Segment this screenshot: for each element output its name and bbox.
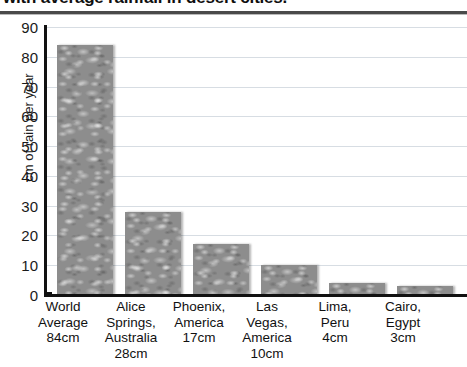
x-label-lima: Lima,Peru4cm	[301, 299, 369, 346]
x-label-line: Cairo,	[369, 299, 437, 315]
chart-title: with average rainfall in desert cities.	[3, 0, 287, 8]
x-label-line: Alice	[97, 299, 165, 315]
x-label-las-vegas: LasVegas,America10cm	[233, 299, 301, 361]
x-label-phoenix: Phoenix,America17cm	[165, 299, 233, 346]
x-label-line: Lima,	[301, 299, 369, 315]
y-tick-label-60: 60	[8, 108, 38, 125]
bar-phoenix[interactable]	[193, 244, 249, 295]
plot-area	[45, 27, 467, 295]
x-label-line: America	[233, 330, 301, 346]
y-tick-label-10: 10	[8, 257, 38, 274]
x-axis-line	[44, 294, 467, 297]
y-axis-foot	[44, 292, 52, 297]
x-label-line: America	[165, 315, 233, 331]
y-tick-label-80: 80	[8, 49, 38, 66]
chart-title-region: with average rainfall in desert cities.	[0, 0, 467, 11]
x-label-line: Vegas,	[233, 315, 301, 331]
y-tick-label-50: 50	[8, 138, 38, 155]
x-label-line: Springs,	[97, 315, 165, 331]
x-label-line: World	[29, 299, 97, 315]
x-label-alice-springs: AliceSprings,Australia28cm	[97, 299, 165, 361]
y-tick-label-20: 20	[8, 227, 38, 244]
bar-world-average[interactable]	[57, 45, 113, 295]
y-tick-label-40: 40	[8, 168, 38, 185]
x-label-line: 10cm	[233, 346, 301, 362]
bar-las-vegas[interactable]	[261, 265, 317, 295]
title-divider-secondary	[0, 14, 467, 15]
bar-alice-springs[interactable]	[125, 212, 181, 295]
x-label-line: Australia	[97, 330, 165, 346]
x-label-line: 4cm	[301, 330, 369, 346]
y-tick-label-70: 70	[8, 79, 38, 96]
x-label-line: 3cm	[369, 330, 437, 346]
x-label-line: Peru	[301, 315, 369, 331]
x-label-world-average: WorldAverage84cm	[29, 299, 97, 346]
x-label-line: 84cm	[29, 330, 97, 346]
x-label-line: Phoenix,	[165, 299, 233, 315]
x-label-line: 28cm	[97, 346, 165, 362]
x-label-line: Las	[233, 299, 301, 315]
y-axis-line	[44, 25, 47, 297]
x-label-line: Egypt	[369, 315, 437, 331]
gridline-90	[45, 27, 467, 28]
x-label-line: Average	[29, 315, 97, 331]
y-tick-label-90: 90	[8, 19, 38, 36]
x-label-line: 17cm	[165, 330, 233, 346]
x-label-cairo: Cairo,Egypt3cm	[369, 299, 437, 346]
y-tick-label-30: 30	[8, 198, 38, 215]
